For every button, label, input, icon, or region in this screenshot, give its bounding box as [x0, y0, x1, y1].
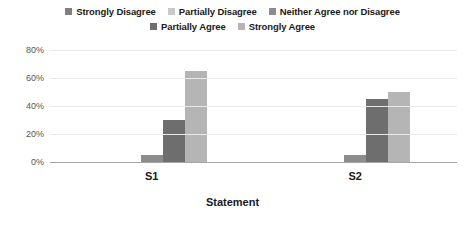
gridline — [50, 106, 457, 107]
legend-item-partially-disagree: Partially Disagree — [168, 5, 257, 18]
legend-item-strongly-agree: Strongly Agree — [238, 20, 315, 33]
legend-label: Partially Agree — [161, 20, 226, 33]
legend-item-partially-agree: Partially Agree — [150, 20, 226, 33]
y-axis-tick-label: 0% — [31, 157, 44, 167]
x-axis-tick-label: S2 — [254, 170, 458, 188]
legend-swatch-icon — [238, 23, 245, 30]
bars — [254, 42, 458, 162]
gridline — [50, 134, 457, 135]
bar-chart: Strongly Disagree Partially Disagree Nei… — [0, 0, 465, 225]
legend-item-strongly-disagree: Strongly Disagree — [65, 5, 156, 18]
y-axis-tick-label: 80% — [26, 45, 44, 55]
chart-legend: Strongly Disagree Partially Disagree Nei… — [0, 4, 465, 34]
legend-row-2: Partially Agree Strongly Agree — [0, 19, 465, 34]
grid-area — [50, 42, 457, 170]
bar[interactable] — [185, 71, 207, 162]
legend-swatch-icon — [269, 8, 276, 15]
y-axis: 0%20%40%60%80% — [8, 42, 48, 170]
y-axis-tick-label: 20% — [26, 129, 44, 139]
legend-label: Strongly Disagree — [76, 5, 156, 18]
bars — [50, 42, 254, 162]
bar[interactable] — [141, 155, 163, 162]
gridline — [50, 50, 457, 51]
legend-label: Partially Disagree — [179, 5, 257, 18]
x-axis-title: Statement — [0, 196, 465, 208]
gridline — [50, 78, 457, 79]
legend-label: Neither Agree nor Disagree — [280, 5, 400, 18]
legend-label: Strongly Agree — [249, 20, 315, 33]
x-axis: S1S2 — [50, 170, 457, 188]
y-axis-tick-label: 40% — [26, 101, 44, 111]
legend-swatch-icon — [150, 23, 157, 30]
legend-row-1: Strongly Disagree Partially Disagree Nei… — [0, 4, 465, 19]
legend-item-neither-agree-nor-disagree: Neither Agree nor Disagree — [269, 5, 400, 18]
x-axis-tick-label: S1 — [50, 170, 254, 188]
y-axis-tick-label: 60% — [26, 73, 44, 83]
x-axis-baseline — [50, 162, 457, 163]
bar[interactable] — [163, 120, 185, 162]
bar[interactable] — [366, 99, 388, 162]
bar[interactable] — [388, 92, 410, 162]
legend-swatch-icon — [168, 8, 175, 15]
plot-area: 0%20%40%60%80% — [0, 42, 465, 170]
legend-swatch-icon — [65, 8, 72, 15]
bar[interactable] — [344, 155, 366, 162]
